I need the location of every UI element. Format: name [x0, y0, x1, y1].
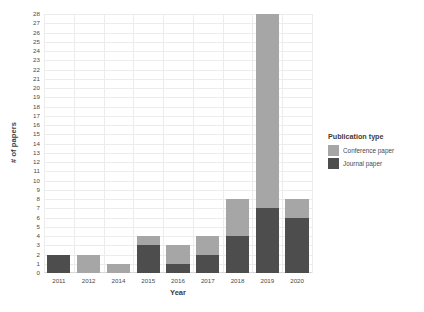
bar-segment-conference-paper[interactable] — [226, 199, 249, 236]
bar-group-2016[interactable] — [166, 245, 189, 273]
y-axis-tick-16: 16 — [33, 122, 40, 128]
y-axis-tick-24: 24 — [33, 48, 40, 54]
bar-segment-journal-paper[interactable] — [196, 255, 219, 274]
bar-segment-conference-paper[interactable] — [77, 255, 100, 274]
bar-segment-journal-paper[interactable] — [285, 218, 308, 274]
bar-segment-journal-paper[interactable] — [256, 208, 279, 273]
bar-segment-journal-paper[interactable] — [47, 255, 70, 274]
bar-segment-conference-paper[interactable] — [256, 14, 279, 208]
x-axis-tick-2017: 2017 — [201, 277, 215, 284]
x-axis-tick-2019: 2019 — [260, 277, 274, 284]
y-axis-tick-28: 28 — [33, 11, 40, 17]
y-axis-tick-4: 4 — [37, 233, 40, 239]
y-axis-tick-1: 1 — [37, 261, 40, 267]
bar-group-2014[interactable] — [107, 264, 130, 273]
y-axis-tick-11: 11 — [34, 168, 40, 174]
y-axis-tick-12: 12 — [33, 159, 40, 165]
y-axis-title-text: # of papers — [10, 122, 19, 163]
x-axis-tick-2018: 2018 — [231, 277, 245, 284]
bar-segment-journal-paper[interactable] — [166, 264, 189, 273]
x-axis-tick-2016: 2016 — [171, 277, 185, 284]
y-axis-tick-8: 8 — [37, 196, 40, 202]
y-axis-tick-26: 26 — [33, 29, 40, 35]
y-axis-tick-2: 2 — [37, 251, 40, 257]
y-axis-tick-25: 25 — [33, 39, 40, 45]
y-axis-tick-7: 7 — [37, 205, 40, 211]
legend-item-label: Conference paper — [343, 147, 394, 154]
y-axis-tick-15: 15 — [33, 131, 40, 137]
bar-group-2018[interactable] — [226, 199, 249, 273]
y-axis-tick-10: 10 — [33, 177, 40, 183]
legend-item-label: Journal paper — [343, 160, 382, 167]
plot-area — [44, 14, 312, 273]
bar-segment-conference-paper[interactable] — [285, 199, 308, 218]
bar-segment-conference-paper[interactable] — [107, 264, 130, 273]
bar-group-2011[interactable] — [47, 255, 70, 274]
y-axis-tick-27: 27 — [33, 20, 40, 26]
bar-chart-figure: # of papers 0123456789101112131415161718… — [0, 0, 424, 312]
y-axis-tick-5: 5 — [37, 224, 40, 230]
x-axis-tick-2012: 2012 — [82, 277, 96, 284]
legend-title: Publication type — [328, 132, 422, 141]
bar-group-2012[interactable] — [77, 255, 100, 274]
y-axis-tick-22: 22 — [33, 66, 40, 72]
bar-segment-conference-paper[interactable] — [137, 236, 160, 245]
y-axis-tick-0: 0 — [37, 270, 40, 276]
legend-item-conference-paper[interactable]: Conference paper — [328, 145, 422, 156]
x-axis-tick-2020: 2020 — [290, 277, 304, 284]
gridline-vertical — [312, 14, 313, 273]
bar-segment-journal-paper[interactable] — [226, 236, 249, 273]
bar-group-2020[interactable] — [285, 199, 308, 273]
y-axis-tick-17: 17 — [33, 113, 40, 119]
y-axis-tick-14: 14 — [33, 140, 40, 146]
y-axis-tick-6: 6 — [37, 214, 40, 220]
y-axis-tick-labels: 0123456789101112131415161718192021222324… — [20, 14, 40, 273]
legend-item-journal-paper[interactable]: Journal paper — [328, 158, 422, 169]
y-axis-tick-18: 18 — [33, 103, 40, 109]
x-axis-tick-2014: 2014 — [112, 277, 126, 284]
bar-group-2019[interactable] — [256, 14, 279, 273]
y-axis-tick-21: 21 — [33, 76, 40, 82]
bar-group-2017[interactable] — [196, 236, 219, 273]
bar-segment-conference-paper[interactable] — [166, 245, 189, 264]
bar-series-container — [44, 14, 312, 273]
y-axis-tick-20: 20 — [33, 85, 40, 91]
legend-swatch-icon — [328, 145, 339, 156]
legend: Publication type Conference paperJournal… — [328, 132, 422, 171]
bar-group-2015[interactable] — [137, 236, 160, 273]
bar-segment-journal-paper[interactable] — [137, 245, 160, 273]
x-axis-tick-2011: 2011 — [52, 277, 65, 284]
x-axis-title: Year — [44, 288, 312, 297]
legend-swatch-icon — [328, 158, 339, 169]
y-axis-tick-13: 13 — [33, 150, 40, 156]
y-axis-tick-9: 9 — [37, 187, 40, 193]
y-axis-tick-23: 23 — [33, 57, 40, 63]
y-axis-tick-3: 3 — [37, 242, 40, 248]
bar-segment-conference-paper[interactable] — [196, 236, 219, 255]
legend-entries: Conference paperJournal paper — [328, 145, 422, 169]
x-axis-tick-2015: 2015 — [141, 277, 155, 284]
y-axis-tick-19: 19 — [33, 94, 40, 100]
